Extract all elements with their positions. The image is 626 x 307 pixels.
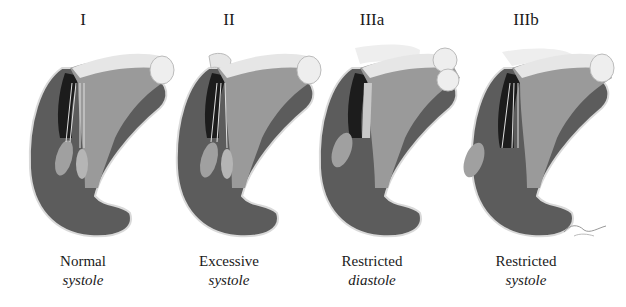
heart-cross-section-icon [452, 38, 622, 243]
caption-phase: systole [60, 271, 106, 290]
caption-title: Restricted [342, 252, 403, 271]
heading-type-iiib: IIIb [513, 10, 538, 30]
heart-cross-section-icon [10, 38, 180, 243]
caption-type-ii: Excessive systole [199, 252, 259, 290]
caption-phase: diastole [342, 271, 403, 290]
caption-title: Excessive [199, 252, 259, 271]
artist-signature [560, 218, 610, 238]
caption-phase: systole [496, 271, 557, 290]
heart-illustration-type-iiia [300, 38, 470, 243]
caption-type-iiia: Restricted diastole [342, 252, 403, 290]
signature-icon [560, 218, 610, 238]
caption-title: Normal [60, 252, 106, 271]
heading-type-ii: II [223, 10, 234, 30]
caption-title: Restricted [496, 252, 557, 271]
heart-illustration-type-iiib [452, 38, 622, 243]
caption-phase: systole [199, 271, 259, 290]
heart-cross-section-icon [300, 38, 470, 243]
heading-type-iiia: IIIa [360, 10, 385, 30]
heart-illustration-type-i [10, 38, 180, 243]
heading-type-i: I [80, 10, 86, 30]
caption-type-i: Normal systole [60, 252, 106, 290]
caption-type-iiib: Restricted systole [496, 252, 557, 290]
